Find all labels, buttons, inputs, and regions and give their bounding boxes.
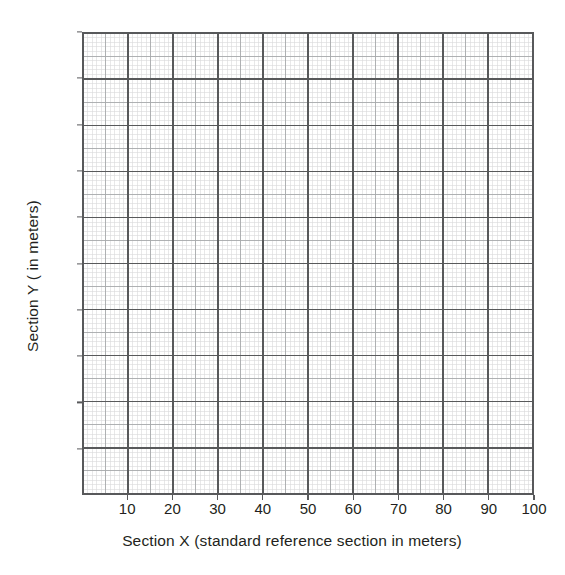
- y-tick-mark: [77, 402, 82, 403]
- x-tick-mark: [398, 495, 399, 500]
- x-tick-mark: [307, 495, 308, 500]
- y-tick-mark: [77, 78, 82, 79]
- y-axis-label: Section Y ( in meters): [16, 36, 50, 516]
- y-tick-mark: [77, 170, 82, 171]
- grid-lines: [83, 33, 533, 494]
- y-tick-mark: [77, 217, 82, 218]
- y-tick-mark: [77, 448, 82, 449]
- y-tick-mark: [77, 263, 82, 264]
- y-tick-mark: [77, 124, 82, 125]
- x-tick-mark: [127, 495, 128, 500]
- x-tick-mark: [488, 495, 489, 500]
- x-tick-mark: [533, 495, 534, 500]
- x-tick-mark: [172, 495, 173, 500]
- graph-paper-figure: Section Y ( in meters) 10203040506070809…: [0, 0, 565, 575]
- x-tick-label: 100: [494, 501, 565, 516]
- x-tick-mark: [262, 495, 263, 500]
- x-tick-mark: [353, 495, 354, 500]
- y-tick-mark: [77, 309, 82, 310]
- y-tick-mark: [77, 355, 82, 356]
- y-tick-mark: [77, 31, 82, 32]
- x-tick-mark: [217, 495, 218, 500]
- x-axis-label: Section X (standard reference section in…: [42, 532, 542, 550]
- x-tick-mark: [443, 495, 444, 500]
- plot-area: [82, 32, 534, 495]
